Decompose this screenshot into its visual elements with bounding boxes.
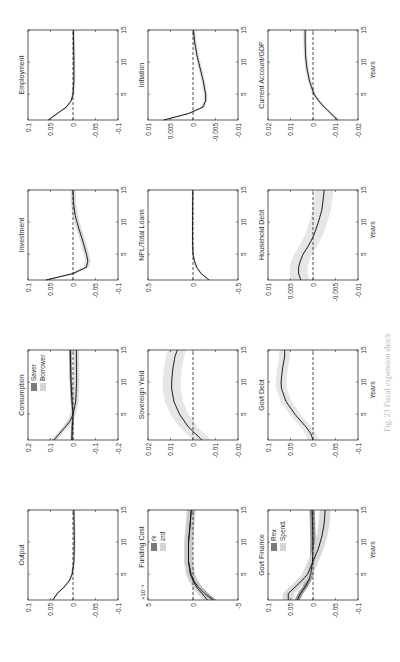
legend-label: Borrower xyxy=(39,354,46,381)
y-tick-label: -0.01 xyxy=(212,443,219,458)
x-tick-label: 15 xyxy=(240,506,247,514)
y-tick-label: -0.1 xyxy=(115,123,122,135)
y-tick-label: 0 xyxy=(70,603,77,607)
x-axis-label: Years xyxy=(369,541,376,559)
x-tick-label: 15 xyxy=(120,506,127,514)
x-tick-label: 15 xyxy=(240,186,247,194)
y-tick-label: 0.05 xyxy=(47,123,54,136)
y-tick-label: -0.1 xyxy=(92,443,99,455)
x-tick-label: 15 xyxy=(240,346,247,354)
panel-inflation: Inflation0.010.0050-0.005-0.0151015 xyxy=(138,26,247,141)
legend-swatch xyxy=(271,543,277,551)
y-tick-label: 0.05 xyxy=(47,283,54,296)
y-tick-label: -0.05 xyxy=(92,603,99,618)
y-tick-label: -0.1 xyxy=(115,603,122,615)
legend-label: Spend. xyxy=(279,520,287,541)
legend-label: Rev. xyxy=(270,528,277,541)
x-tick-label: 10 xyxy=(120,58,127,66)
y-tick-label: 0.01 xyxy=(167,443,174,456)
x-tick-label: 5 xyxy=(120,412,127,416)
y-tick-label: -0.05 xyxy=(332,603,339,618)
panel-title: NPL/Total Loans xyxy=(138,209,145,261)
confidence-band xyxy=(163,350,211,440)
x-tick-label: 10 xyxy=(240,58,247,66)
x-tick-label: 5 xyxy=(240,572,247,576)
x-tick-label: 10 xyxy=(120,378,127,386)
x-tick-label: 15 xyxy=(240,26,247,34)
legend-label: zrd xyxy=(159,532,166,541)
x-tick-label: 10 xyxy=(120,218,127,226)
figure-frame: Output0.10.050-0.05-0.151015Consumption0… xyxy=(0,0,400,662)
y-tick-label: 0 xyxy=(190,123,197,127)
x-tick-label: 10 xyxy=(240,218,247,226)
y-tick-label: -0.1 xyxy=(355,443,362,455)
panel-investment: Investment0.10.050-0.05-0.151015 xyxy=(18,186,127,298)
y-tick-label: -0.1 xyxy=(115,283,122,295)
panel-output: Output0.10.050-0.05-0.151015 xyxy=(18,506,127,618)
series-line xyxy=(48,30,74,120)
x-tick-label: 5 xyxy=(120,92,127,96)
x-tick-label: 15 xyxy=(360,346,367,354)
x-tick-label: 10 xyxy=(360,58,367,66)
x-tick-label: 15 xyxy=(120,346,127,354)
y-tick-label: 0 xyxy=(190,443,197,447)
x-tick-label: 5 xyxy=(360,572,367,576)
confidence-band xyxy=(162,30,207,120)
x-tick-label: 5 xyxy=(120,252,127,256)
series-line xyxy=(193,190,210,280)
y-tick-label: -0.005 xyxy=(212,123,219,142)
y-tick-label: 0 xyxy=(310,283,317,287)
y-tick-label: 0 xyxy=(310,123,317,127)
panel-title: Sovereign Yield xyxy=(138,371,146,420)
x-axis-label: Years xyxy=(369,381,376,399)
y-tick-label: 0.2 xyxy=(25,443,32,452)
y-tick-label: -0.5 xyxy=(235,283,242,295)
x-tick-label: 5 xyxy=(120,572,127,576)
y-tick-label: -0.02 xyxy=(355,123,362,138)
panel-employment: Employment0.10.050-0.05-0.151015 xyxy=(18,26,127,138)
y-multiplier: ×10⁻³ xyxy=(140,585,146,600)
panel-sovereign-yield: Sovereign Yield0.020.010-0.01-0.0251015 xyxy=(138,346,247,458)
legend-swatch xyxy=(280,543,286,551)
panel-title: Household Debt xyxy=(258,210,265,260)
confidence-band xyxy=(192,190,210,280)
legend-swatch xyxy=(151,543,157,551)
y-tick-label: -0.05 xyxy=(332,443,339,458)
y-tick-label: 0 xyxy=(70,283,77,287)
confidence-band xyxy=(290,190,334,280)
x-tick-label: 15 xyxy=(120,26,127,34)
panel-household-debt: Household Debt0.010.0050-0.005-0.0151015… xyxy=(258,186,376,301)
y-tick-label: 0.005 xyxy=(287,283,294,300)
x-axis-label: Years xyxy=(369,61,376,79)
legend-label: rk xyxy=(150,535,157,541)
legend-swatch xyxy=(40,383,46,391)
y-tick-label: 0 xyxy=(310,603,317,607)
panel-title: Govt Finance xyxy=(258,534,265,576)
y-tick-label: -0.2 xyxy=(115,443,122,455)
panel-govt-debt: Govt Debt0.10.050-0.05-0.151015Years xyxy=(258,346,376,458)
x-tick-label: 10 xyxy=(360,218,367,226)
figure-canvas: Output0.10.050-0.05-0.151015Consumption0… xyxy=(0,0,400,662)
series-line xyxy=(164,30,206,120)
legend-swatch xyxy=(160,543,166,551)
x-tick-label: 10 xyxy=(240,538,247,546)
x-tick-label: 15 xyxy=(360,186,367,194)
y-tick-label: 0 xyxy=(190,603,197,607)
panel-title: Funding Cost xyxy=(138,526,146,568)
x-tick-label: 5 xyxy=(240,252,247,256)
y-tick-label: -0.005 xyxy=(332,283,339,302)
panel-npl-total-loans: NPL/Total Loans0.50-0.551015 xyxy=(138,186,247,294)
panel-title: Investment xyxy=(18,218,25,252)
panel-title: Output xyxy=(18,544,26,565)
confidence-band xyxy=(43,190,90,280)
y-tick-label: 0.1 xyxy=(265,443,272,452)
x-tick-label: 10 xyxy=(240,378,247,386)
panel-consumption: Consumption0.20.10-0.1-0.251015SaverBorr… xyxy=(18,346,127,454)
y-tick-label: -0.01 xyxy=(332,123,339,138)
y-tick-label: 0.1 xyxy=(25,123,32,132)
y-tick-label: -0.02 xyxy=(235,443,242,458)
x-tick-label: 10 xyxy=(360,538,367,546)
confidence-band xyxy=(51,510,75,600)
panel-title: Inflation xyxy=(138,63,145,88)
y-tick-label: 5 xyxy=(145,603,152,607)
